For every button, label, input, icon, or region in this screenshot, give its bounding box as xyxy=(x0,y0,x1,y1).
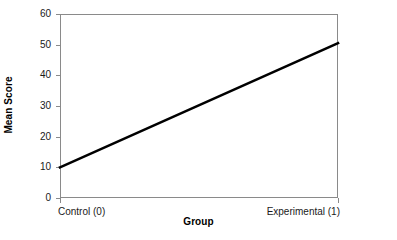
y-axis-tick-label: 10 xyxy=(40,160,51,173)
x-axis-tick-mark xyxy=(60,198,61,203)
y-axis-tick-label: 50 xyxy=(40,38,51,51)
y-axis-title-text: Mean Score xyxy=(3,76,14,133)
y-axis-tick-label: 30 xyxy=(40,99,51,112)
y-axis-tick-label: 40 xyxy=(40,68,51,81)
line-chart-figure: 0 10 20 30 40 50 60 Mean Score xyxy=(0,0,397,240)
x-axis-title-text: Group xyxy=(183,216,214,227)
y-axis-tick-label: 60 xyxy=(40,7,51,20)
y-axis-tick-label: 20 xyxy=(40,130,51,143)
x-axis-title: Group xyxy=(0,216,397,227)
series-layer xyxy=(60,14,338,198)
data-line-mean-score xyxy=(60,43,338,167)
x-axis-tick-mark xyxy=(338,198,339,203)
